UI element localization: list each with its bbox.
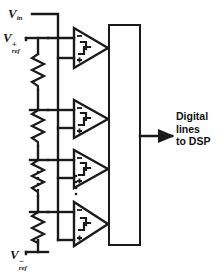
label-v-in: Vin [8,6,23,22]
label-v-ref-minus: V−ref [10,247,19,263]
v-ref-plus-subscript: ref [12,47,20,55]
output-label: Digital lines to DSP [176,110,224,148]
label-v-ref-plus: V+ref [3,30,12,46]
step-transfer-icon [79,113,90,125]
v-ref-minus-symbol: V [10,247,19,262]
output-line-3: to DSP [176,135,224,148]
resistor-4 [32,212,44,243]
v-in-subscript: in [17,14,23,22]
step-transfer-icon [79,218,90,230]
v-in-symbol: V [8,6,17,21]
resistor-2 [32,110,44,146]
step-transfer-icon [79,42,90,54]
priority-encoder-box [109,25,140,245]
v-ref-plus-symbol: V [3,30,12,45]
step-transfer-icon [79,163,90,175]
output-line-2: lines [176,123,224,136]
resistor-1 [32,54,44,90]
minus-taps [48,38,74,212]
flash-adc-diagram: Vin V+ref V−ref Priority encoder Digital… [0,0,224,274]
v-ref-minus-subscript: ref [19,264,27,272]
output-line-1: Digital [176,110,224,123]
